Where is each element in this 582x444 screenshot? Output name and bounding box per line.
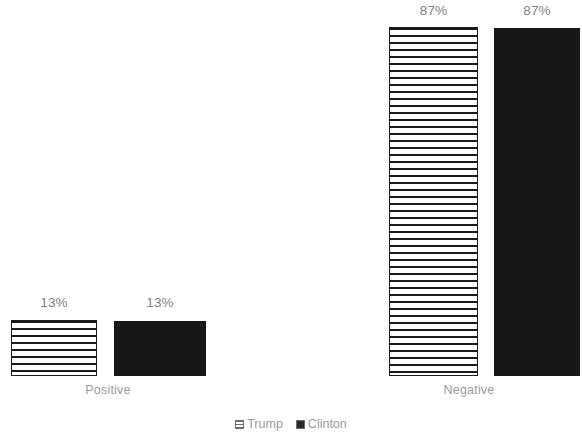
striped-square-icon bbox=[235, 420, 244, 429]
legend: Trump Clinton bbox=[0, 418, 582, 431]
bar-clinton-positive bbox=[114, 321, 206, 376]
plot-area: 13% 13% 87% 87% bbox=[0, 0, 582, 376]
legend-item-trump[interactable]: Trump bbox=[235, 418, 283, 431]
legend-label-trump: Trump bbox=[247, 418, 283, 431]
bar-clinton-negative bbox=[494, 28, 580, 376]
bar-value-label-trump-positive: 13% bbox=[11, 295, 97, 310]
bar-trump-negative bbox=[389, 27, 478, 376]
bar-chart: 13% 13% 87% 87% Positive Negative Trump … bbox=[0, 0, 582, 444]
bar-value-label-clinton-positive: 13% bbox=[114, 295, 206, 310]
bar-value-label-trump-negative: 87% bbox=[389, 3, 478, 18]
legend-item-clinton[interactable]: Clinton bbox=[296, 418, 347, 431]
category-label-positive: Positive bbox=[48, 383, 168, 397]
solid-square-icon bbox=[296, 420, 305, 429]
category-label-negative: Negative bbox=[409, 383, 529, 397]
bar-trump-positive bbox=[11, 320, 97, 376]
legend-label-clinton: Clinton bbox=[308, 418, 347, 431]
bar-value-label-clinton-negative: 87% bbox=[494, 3, 580, 18]
